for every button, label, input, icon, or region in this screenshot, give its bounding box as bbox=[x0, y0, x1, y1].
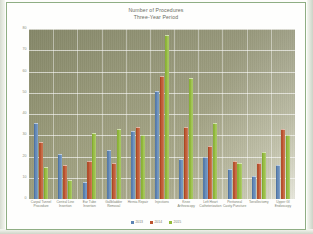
y-axis-tick-label: 70 bbox=[23, 48, 27, 52]
bar[interactable] bbox=[117, 129, 121, 199]
legend-color-swatch bbox=[169, 221, 172, 224]
bar-group bbox=[247, 29, 271, 199]
chart-container: Number of Procedures Three-Year Period 0… bbox=[6, 2, 306, 230]
bar[interactable] bbox=[107, 150, 111, 199]
x-axis-tick-label: Ear TubeInsertion bbox=[77, 200, 101, 209]
bar-group bbox=[198, 29, 222, 199]
bar[interactable] bbox=[276, 165, 280, 199]
bar-group bbox=[126, 29, 150, 199]
bar-group bbox=[174, 29, 198, 199]
bar[interactable] bbox=[160, 76, 164, 199]
legend-label: 2014 bbox=[154, 221, 162, 224]
x-axis-tick-label: GallbladderRemoval bbox=[102, 200, 126, 209]
y-axis-tick-label: 30 bbox=[23, 133, 27, 137]
bar[interactable] bbox=[286, 135, 290, 199]
bar[interactable] bbox=[257, 163, 261, 199]
bar-group bbox=[150, 29, 174, 199]
y-axis-tick-label: 80 bbox=[23, 27, 27, 31]
legend-label: 2015 bbox=[174, 221, 182, 224]
bar[interactable] bbox=[39, 142, 43, 199]
x-axis-tick-label: Left HeartCatheterization bbox=[198, 200, 222, 209]
bar[interactable] bbox=[141, 135, 145, 199]
bar[interactable] bbox=[58, 154, 62, 199]
x-axis-tick-label: Upper GIEndoscopy bbox=[271, 200, 295, 209]
legend-item[interactable]: 2015 bbox=[169, 221, 181, 224]
x-axis-tick-label: Central LineInsertion bbox=[53, 200, 77, 209]
legend-item[interactable]: 2014 bbox=[150, 221, 162, 224]
y-axis-tick-label: 20 bbox=[23, 155, 27, 159]
x-axis-tick-label: Carpal TunnelProcedure bbox=[29, 200, 53, 209]
bar[interactable] bbox=[87, 161, 91, 199]
scanned-page: Number of Procedures Three-Year Period 0… bbox=[0, 0, 313, 234]
bar[interactable] bbox=[203, 157, 207, 200]
bar[interactable] bbox=[233, 161, 237, 199]
bar[interactable] bbox=[92, 133, 96, 199]
y-axis-tick-label: 0 bbox=[25, 197, 27, 201]
x-axis-tick-label: KneeArthroscopy bbox=[174, 200, 198, 209]
bar-group bbox=[223, 29, 247, 199]
legend-color-swatch bbox=[150, 221, 153, 224]
bar-group bbox=[29, 29, 53, 199]
chart-subtitle: Three-Year Period bbox=[7, 14, 305, 21]
bar[interactable] bbox=[44, 167, 48, 199]
bar[interactable] bbox=[208, 146, 212, 199]
bar-group bbox=[271, 29, 295, 199]
legend-color-swatch bbox=[131, 221, 134, 224]
chart-title-block: Number of Procedures Three-Year Period bbox=[7, 7, 305, 21]
bar[interactable] bbox=[112, 163, 116, 199]
x-axis-labels: Carpal TunnelProcedureCentral LineInsert… bbox=[29, 200, 295, 209]
chart-legend: 201320142015 bbox=[7, 221, 305, 224]
bar[interactable] bbox=[83, 182, 87, 199]
bar[interactable] bbox=[262, 152, 266, 199]
bar-group bbox=[53, 29, 77, 199]
x-axis-tick-label: PeritonealCavity Puncture bbox=[223, 200, 247, 209]
bar[interactable] bbox=[165, 35, 169, 199]
bar-group bbox=[77, 29, 101, 199]
legend-label: 2013 bbox=[135, 221, 143, 224]
bar[interactable] bbox=[155, 91, 159, 199]
plot-area bbox=[29, 29, 295, 199]
bar[interactable] bbox=[136, 127, 140, 199]
bar[interactable] bbox=[34, 123, 38, 200]
bar-group bbox=[102, 29, 126, 199]
bar[interactable] bbox=[131, 131, 135, 199]
bar[interactable] bbox=[237, 163, 241, 199]
bar[interactable] bbox=[213, 123, 217, 200]
x-axis-tick-label: Tonsillectomy bbox=[247, 200, 271, 209]
bar[interactable] bbox=[281, 129, 285, 199]
chart-title: Number of Procedures bbox=[7, 7, 305, 14]
bar[interactable] bbox=[179, 159, 183, 199]
bar[interactable] bbox=[252, 176, 256, 199]
bar[interactable] bbox=[63, 165, 67, 199]
page-edge-left bbox=[0, 0, 5, 234]
bar[interactable] bbox=[228, 169, 232, 199]
y-axis-tick-label: 10 bbox=[23, 176, 27, 180]
bar[interactable] bbox=[184, 127, 188, 199]
legend-item[interactable]: 2013 bbox=[131, 221, 143, 224]
y-axis-tick-label: 40 bbox=[23, 112, 27, 116]
y-axis-tick-label: 50 bbox=[23, 91, 27, 95]
x-axis-tick-label: Injections bbox=[150, 200, 174, 209]
bar[interactable] bbox=[189, 78, 193, 199]
page-edge-right bbox=[307, 0, 313, 234]
y-axis-tick-label: 60 bbox=[23, 70, 27, 74]
x-axis-tick-label: Hernia Repair bbox=[126, 200, 150, 209]
plot-wrapper: 01020304050607080 bbox=[29, 29, 295, 199]
bar-series-layer bbox=[29, 29, 295, 199]
bar[interactable] bbox=[68, 180, 72, 199]
